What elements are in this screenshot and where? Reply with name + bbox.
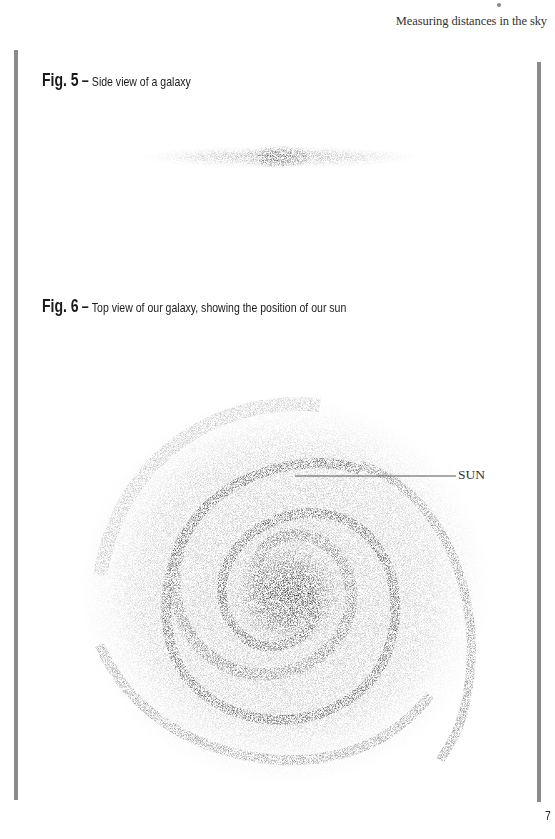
header-ornament-dot: [497, 3, 501, 7]
figure-6-caption: Fig. 6–Top view of our galaxy, showing t…: [42, 296, 346, 317]
page-number: 7: [545, 808, 551, 823]
sun-label: SUN: [458, 467, 485, 483]
figure-5-caption: Fig. 5–Side view of a galaxy: [42, 70, 191, 91]
caption-dash: –: [82, 298, 89, 315]
right-margin-rule: [537, 62, 541, 802]
figure-6-number: Fig. 6: [42, 296, 79, 316]
caption-dash: –: [82, 72, 89, 89]
figure-6-description: Top view of our galaxy, showing the posi…: [92, 300, 346, 315]
edge-on-galaxy-illustration: [140, 135, 420, 180]
spiral-galaxy-illustration: [60, 375, 500, 815]
running-header-title: Measuring distances in the sky: [396, 14, 547, 29]
left-margin-rule: [14, 50, 18, 800]
figure-5-description: Side view of a galaxy: [92, 74, 191, 89]
figure-5-number: Fig. 5: [42, 70, 79, 90]
